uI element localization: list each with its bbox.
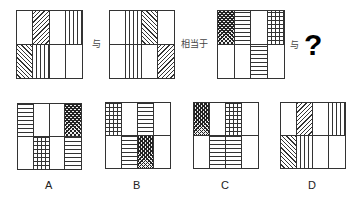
cell-top-4-grid-pattern [268,11,285,45]
cell-top-2-fwd-pattern [297,103,313,136]
cell-bottom-4-empty-pattern [268,45,285,79]
cell-bottom-3-diamond-pattern [138,136,154,169]
cell-bottom-3-empty-pattern [313,136,329,169]
option-c-label[interactable]: C [221,180,229,191]
option-d-figure[interactable] [280,102,346,169]
option-b-figure[interactable] [105,102,171,169]
cell-top-3-empty-pattern [313,103,329,136]
cell-bottom-1-empty-pattern [106,136,122,169]
cell-bottom-2-empty-pattern [235,45,252,79]
cell-bottom-4-empty-pattern [329,136,345,169]
cell-top-4-empty-pattern [158,11,174,45]
cell-top-4-vert-pattern [66,11,82,45]
option-b-label[interactable]: B [133,180,140,191]
given-figure-1 [16,10,83,79]
cell-top-2-empty-pattern [210,103,226,136]
cell-top-3-grid-pattern [226,103,242,136]
cell-bottom-4-empty-pattern [66,45,82,79]
cell-top-1-diamond-pattern [218,11,235,45]
cell-top-1-diamond-pattern [194,103,210,136]
cell-bottom-4-horiz-pattern [65,137,81,170]
cell-bottom-4-empty-pattern [154,136,170,169]
given-figure-2 [109,10,175,79]
cell-top-1-horiz-pattern [18,104,34,137]
cell-bottom-2-grid-pattern [34,137,50,170]
cell-bottom-2-horiz-pattern [210,136,226,169]
cell-top-4-empty-pattern [242,103,258,136]
connector-text-1: 与 [92,40,101,49]
cell-top-3-empty-pattern [50,104,66,137]
equivalence-text: 相当于 [181,40,208,49]
option-a-label[interactable]: A [45,180,52,191]
cell-bottom-1-empty-pattern [110,45,126,79]
cell-top-1-empty-pattern [17,11,33,45]
question-mark-icon: ? [304,30,322,60]
cell-top-2-vert-pattern [126,11,142,45]
cell-top-2-horiz-pattern [235,11,252,45]
cell-bottom-3-horiz-pattern [226,136,242,169]
cell-top-2-fwd-pattern [33,11,49,45]
cell-bottom-3-empty-pattern [50,137,66,170]
cell-top-1-empty-pattern [110,11,126,45]
cell-top-4-vert-pattern [329,103,345,136]
cell-bottom-3-empty-pattern [142,45,158,79]
option-c-figure[interactable] [193,102,259,169]
cell-bottom-3-empty-pattern [50,45,66,79]
cell-bottom-2-horiz-pattern [122,136,138,169]
cell-bottom-1-back-pattern [17,45,33,79]
cell-top-4-diamond-pattern [65,104,81,137]
cell-bottom-4-fwd-pattern [158,45,174,79]
cell-bottom-2-vert-pattern [297,136,313,169]
cell-top-1-grid-pattern [106,103,122,136]
cell-top-2-empty-pattern [34,104,50,137]
cell-bottom-2-vert-pattern [126,45,142,79]
option-d-label[interactable]: D [308,180,316,191]
cell-bottom-1-empty-pattern [194,136,210,169]
given-figure-3 [217,10,285,79]
cell-top-3-empty-pattern [251,11,268,45]
cell-top-3-empty-pattern [50,11,66,45]
cell-top-3-horiz-pattern [138,103,154,136]
cell-top-2-empty-pattern [122,103,138,136]
cell-bottom-1-back-pattern [281,136,297,169]
connector-text-2: 与 [290,41,299,50]
cell-bottom-1-empty-pattern [218,45,235,79]
cell-bottom-4-empty-pattern [242,136,258,169]
option-a-figure[interactable] [17,103,82,170]
cell-top-4-empty-pattern [154,103,170,136]
cell-bottom-3-horiz-pattern [251,45,268,79]
cell-bottom-1-empty-pattern [18,137,34,170]
cell-top-1-empty-pattern [281,103,297,136]
cell-bottom-2-vert-pattern [33,45,49,79]
cell-top-3-back-pattern [142,11,158,45]
